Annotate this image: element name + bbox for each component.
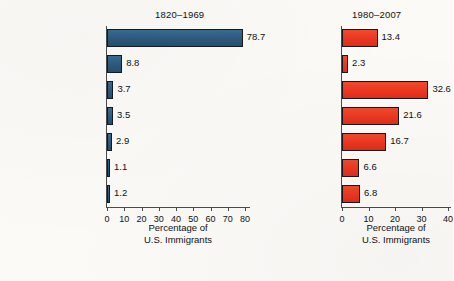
bar-value-label: 8.8	[126, 57, 139, 68]
bar-value-label: 6.8	[364, 187, 377, 198]
x-tick-mark	[176, 208, 177, 212]
x-tick-mark	[159, 208, 160, 212]
bar-value-label: 1.1	[114, 161, 127, 172]
x-tick-mark	[369, 208, 370, 212]
x-tick-label: 30	[416, 214, 426, 224]
bar	[342, 55, 348, 73]
x-tick-label: 10	[119, 214, 129, 224]
bar-row: 21.6	[342, 104, 448, 130]
bar-row: 2.3	[342, 52, 448, 78]
bar-row: 2.9	[107, 130, 245, 156]
plot-area-right: Percentage of U.S. Immigrants 13.42.332.…	[342, 26, 448, 208]
plot-area-left: Percentage of U.S. Immigrants 78.7Europe…	[107, 26, 245, 208]
x-tick-label: 70	[223, 214, 233, 224]
panel-title-right: 1980–2007	[352, 9, 401, 20]
bar-value-label: 3.5	[117, 109, 130, 120]
x-tick-mark	[107, 208, 108, 212]
panel-title-left: 1820–1969	[155, 9, 204, 20]
bar-row: 8.8	[107, 52, 245, 78]
bar	[107, 159, 110, 177]
bar	[107, 133, 112, 151]
bar-value-label: 2.9	[116, 135, 129, 146]
bar-value-label: 78.7	[247, 31, 266, 42]
bar-row: 32.6	[342, 78, 448, 104]
bar-row: 16.7	[342, 130, 448, 156]
bar-row: 1.1	[107, 156, 245, 182]
bar	[342, 107, 399, 125]
x-tick-mark	[193, 208, 194, 212]
x-tick-label: 30	[154, 214, 164, 224]
x-axis-title-left: Percentage of U.S. Immigrants	[105, 222, 251, 246]
bar-value-label: 21.6	[403, 109, 422, 120]
x-tick-label: 20	[390, 214, 400, 224]
x-tick-mark	[245, 208, 246, 212]
x-tick-mark	[448, 208, 449, 212]
bar	[342, 81, 428, 99]
x-tick-label: 50	[188, 214, 198, 224]
bar-row: 78.7	[107, 26, 245, 52]
x-tick-label: 40	[171, 214, 181, 224]
chart-panel-1980-2007: 1980–2007 Percentage of U.S. Immigrants …	[318, 0, 453, 281]
bar	[342, 185, 360, 203]
bar-row: 3.7	[107, 78, 245, 104]
x-tick-label: 40	[443, 214, 453, 224]
bar-value-label: 2.3	[352, 57, 365, 68]
bar	[107, 185, 110, 203]
bar	[342, 29, 378, 47]
x-tick-label: 60	[205, 214, 215, 224]
bar-value-label: 13.4	[382, 31, 401, 42]
bar-value-label: 16.7	[390, 135, 409, 146]
x-tick-label: 20	[136, 214, 146, 224]
bar	[107, 55, 122, 73]
bar-row: 13.4	[342, 26, 448, 52]
x-axis-title-right: Percentage of U.S. Immigrants	[338, 222, 454, 246]
bar-row: 1.2	[107, 182, 245, 208]
x-tick-mark	[395, 208, 396, 212]
x-tick-mark	[142, 208, 143, 212]
bar	[107, 81, 113, 99]
x-tick-mark	[228, 208, 229, 212]
x-tick-mark	[211, 208, 212, 212]
bar-value-label: 6.6	[363, 161, 376, 172]
bar	[342, 159, 359, 177]
x-tick-mark	[342, 208, 343, 212]
x-tick-mark	[422, 208, 423, 212]
bar-value-label: 3.7	[117, 83, 130, 94]
x-tick-label: 0	[339, 214, 344, 224]
x-tick-label: 10	[363, 214, 373, 224]
chart-panel-1820-1969: 1820–1969 Percentage of U.S. Immigrants …	[0, 0, 318, 281]
x-tick-label: 0	[104, 214, 109, 224]
bar	[342, 133, 386, 151]
bar-row: 3.5	[107, 104, 245, 130]
bar	[107, 107, 113, 125]
x-tick-mark	[124, 208, 125, 212]
bar-value-label: 32.6	[432, 83, 451, 94]
bar-row: 6.8	[342, 182, 448, 208]
bar-value-label: 1.2	[114, 187, 127, 198]
bar	[107, 29, 243, 47]
x-tick-label: 80	[240, 214, 250, 224]
bar-row: 6.6	[342, 156, 448, 182]
